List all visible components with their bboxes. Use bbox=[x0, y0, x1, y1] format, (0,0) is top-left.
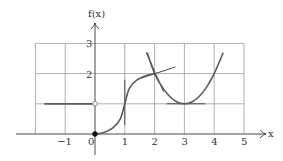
y-tick-label: 2 bbox=[86, 69, 92, 80]
x-tick-label: 2 bbox=[152, 136, 158, 147]
axes: x f(x) bbox=[16, 8, 274, 155]
x-tick-label: 4 bbox=[211, 136, 217, 147]
filled-dot bbox=[93, 132, 98, 137]
x-tick-label: 5 bbox=[241, 136, 247, 147]
function-curves bbox=[44, 52, 223, 134]
x-axis-label: x bbox=[268, 128, 274, 139]
x-tick-label: 3 bbox=[181, 136, 187, 147]
tick-labels: −101234523 bbox=[57, 38, 247, 147]
x-tick-label: 1 bbox=[122, 136, 128, 147]
grid bbox=[35, 43, 244, 134]
x-tick-label: −1 bbox=[57, 136, 72, 147]
parabola bbox=[147, 52, 223, 103]
tangent-lines bbox=[125, 52, 205, 124]
open-circle bbox=[93, 102, 98, 107]
y-tick-label: 3 bbox=[86, 38, 92, 49]
y-axis-label: f(x) bbox=[88, 8, 105, 19]
x-tick-label: 0 bbox=[88, 136, 94, 147]
function-graph: x f(x) −101234523 bbox=[0, 0, 283, 161]
